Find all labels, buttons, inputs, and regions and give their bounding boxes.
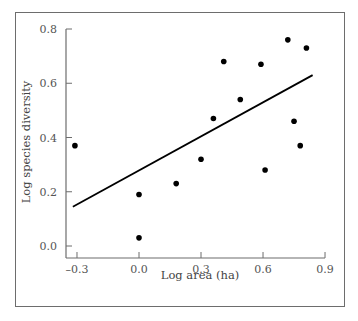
data-point — [136, 192, 142, 198]
data-point — [258, 61, 264, 67]
x-tick-label: 0.9 — [316, 263, 334, 276]
data-point — [198, 156, 204, 162]
data-point — [297, 143, 303, 149]
y-axis-title: Log species diversity — [19, 80, 33, 203]
data-point — [262, 167, 268, 173]
data-point — [291, 118, 297, 124]
data-point — [173, 181, 179, 187]
x-axis-title: Log area (ha) — [161, 268, 239, 282]
y-tick-label: 0.6 — [40, 77, 58, 90]
data-point — [285, 37, 291, 43]
y-tick-label: 0.2 — [40, 186, 58, 199]
y-tick-label: 0.0 — [40, 240, 58, 253]
data-point — [136, 235, 142, 241]
regression-line-path — [73, 75, 313, 207]
data-point — [221, 59, 227, 65]
y-tick-label: 0.4 — [40, 132, 58, 145]
data-point — [237, 97, 243, 103]
data-point — [304, 45, 310, 51]
data-points — [72, 37, 309, 241]
data-point — [72, 143, 78, 149]
axes: 0.00.20.40.60.8–0.30.00.30.60.9 — [40, 23, 334, 276]
x-tick-label: 0.6 — [254, 263, 272, 276]
x-tick-label: –0.3 — [65, 263, 88, 276]
data-point — [211, 116, 217, 122]
regression-line — [73, 75, 313, 207]
x-tick-label: 0.0 — [130, 263, 148, 276]
scatter-chart: 0.00.20.40.60.8–0.30.00.30.60.9 Log area… — [0, 0, 358, 321]
y-tick-label: 0.8 — [40, 23, 58, 36]
